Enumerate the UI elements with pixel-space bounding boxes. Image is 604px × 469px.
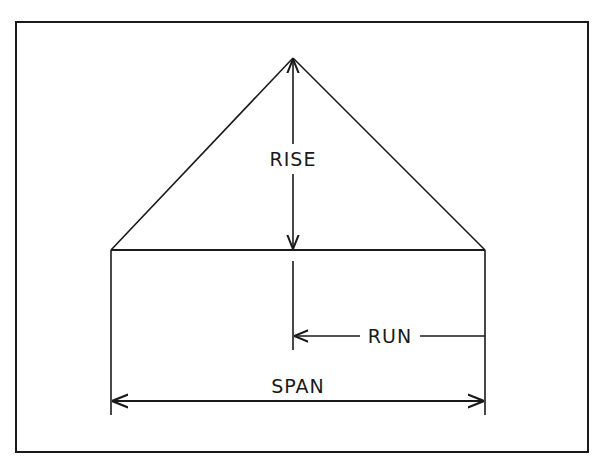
right-rafter	[293, 58, 485, 250]
left-rafter	[111, 58, 293, 250]
rise-label: RISE	[270, 148, 317, 170]
run-label: RUN	[368, 325, 412, 347]
span-label: SPAN	[271, 375, 325, 397]
roof-diagram: RISE RUN SPAN	[0, 0, 604, 469]
